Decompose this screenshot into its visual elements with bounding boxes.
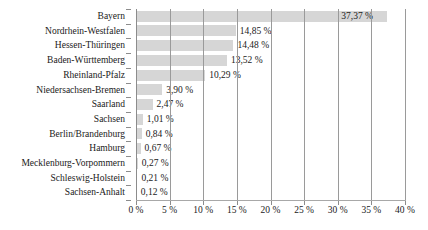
category-label: Saarland: [92, 97, 125, 112]
x-tick-label: 15 %: [227, 205, 247, 215]
bar-value-label: 0,84 %: [146, 127, 173, 142]
category-label: Hamburg: [89, 141, 125, 156]
bar: [136, 40, 233, 51]
category-tick: [126, 97, 131, 98]
x-tick-label: 20 %: [261, 205, 281, 215]
x-tick-label: 5 %: [162, 205, 177, 215]
gridline-35: [371, 9, 372, 200]
bar: [136, 55, 227, 66]
bar: [136, 84, 162, 95]
category-tick: [126, 9, 131, 10]
category-tick: [126, 53, 131, 54]
bar: [136, 99, 153, 110]
gridline-15: [237, 9, 238, 200]
category-label: Bayern: [98, 9, 125, 24]
category-tick: [126, 112, 131, 113]
bar-value-label: 0,12 %: [141, 185, 168, 200]
gridline-20: [271, 9, 272, 200]
bar-value-label: 0,67 %: [145, 141, 172, 156]
category-label: Mecklenburg-Vorpommern: [21, 156, 125, 171]
x-tick-label: 35 %: [361, 205, 381, 215]
category-tick: [126, 200, 131, 201]
bar-value-label: 37,37 %: [341, 9, 373, 24]
x-tick-label: 0 %: [128, 205, 143, 215]
gridline-30: [338, 9, 339, 200]
gridline-5: [170, 9, 171, 200]
x-tick-label: 10 %: [193, 205, 213, 215]
category-tick: [126, 171, 131, 172]
category-label: Baden-Württemberg: [47, 53, 125, 68]
bar: [136, 114, 143, 125]
category-label: Sachsen-Anhalt: [65, 185, 125, 200]
bar-value-label: 0,21 %: [141, 171, 168, 186]
category-label: Berlin/Brandenburg: [49, 127, 125, 142]
x-tick-label: 25 %: [294, 205, 314, 215]
category-label: Sachsen: [94, 112, 125, 127]
category-tick: [126, 68, 131, 69]
bar-value-label: 14,85 %: [240, 24, 272, 39]
category-label: Niedersachsen-Bremen: [36, 83, 125, 98]
category-label: Rheinland-Pfalz: [63, 68, 125, 83]
category-tick: [126, 156, 131, 157]
bar: [136, 25, 236, 36]
horizontal-bar-chart: BayernNordrhein-WestfalenHessen-Thüringe…: [0, 0, 428, 230]
plot-area: 37,37 %14,85 %14,48 %13,52 %10,29 %3,90 …: [136, 9, 405, 200]
gridline-10: [203, 9, 204, 200]
x-tick-label: 30 %: [328, 205, 348, 215]
category-tick: [126, 141, 131, 142]
gridline-0: [136, 9, 137, 200]
category-label-column: BayernNordrhein-WestfalenHessen-Thüringe…: [0, 9, 131, 200]
category-label: Nordrhein-Westfalen: [45, 24, 125, 39]
x-axis-ticks: 0 %5 %10 %15 %20 %25 %30 %35 %40 %: [136, 201, 406, 217]
category-tick: [126, 38, 131, 39]
category-label: Hessen-Thüringen: [55, 38, 125, 53]
category-label: Schleswig-Holstein: [51, 171, 125, 186]
category-tick: [126, 24, 131, 25]
category-tick: [126, 185, 131, 186]
gridline-40: [405, 9, 406, 200]
gridline-25: [304, 9, 305, 200]
bar-value-label: 0,27 %: [142, 156, 169, 171]
category-tick: [126, 83, 131, 84]
category-tick: [126, 127, 131, 128]
bar-value-label: 14,48 %: [237, 38, 269, 53]
bar-value-label: 13,52 %: [231, 53, 263, 68]
x-tick-label: 40 %: [395, 205, 415, 215]
